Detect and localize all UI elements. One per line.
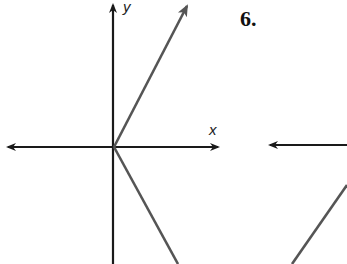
diagram-canvas <box>0 0 347 264</box>
x-axis-label: x <box>209 121 217 138</box>
lower-ray <box>114 147 178 264</box>
right-graph <box>270 145 347 264</box>
left-graph <box>8 5 218 264</box>
problem-number: 6. <box>240 6 257 32</box>
upper-ray <box>114 6 187 147</box>
y-axis-label: y <box>123 0 131 15</box>
right-ray <box>292 185 347 264</box>
